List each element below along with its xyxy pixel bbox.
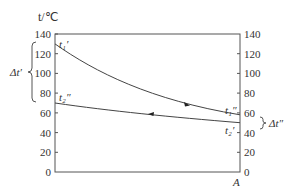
- t1-double-prime-label: t₁″: [225, 104, 237, 116]
- t2-curve: [55, 103, 240, 123]
- delta-t-double-prime-brace: [260, 117, 266, 129]
- y-axis-title: t/℃: [38, 10, 58, 24]
- delta-t-prime-label: Δt′: [9, 66, 23, 78]
- t2-double-prime-label: t₂″: [59, 91, 71, 103]
- right-tick-60: 60: [244, 107, 256, 119]
- left-tick-40: 40: [40, 127, 52, 139]
- left-tick-80: 80: [40, 87, 52, 99]
- left-tick-60: 60: [40, 107, 52, 119]
- right-axis: 140 120 100 80 60 40 20 0: [237, 28, 261, 178]
- left-tick-120: 120: [35, 48, 52, 60]
- t2-prime-label: t₂′: [225, 124, 235, 136]
- t2-arrow-left-icon: [148, 112, 154, 116]
- t1-prime-label: t₁′: [59, 38, 69, 50]
- left-tick-140: 140: [35, 28, 52, 40]
- delta-t-double-prime-label: Δt″: [268, 117, 284, 129]
- right-tick-80: 80: [244, 87, 256, 99]
- t1-curve: [55, 44, 240, 115]
- plot-frame: [55, 34, 240, 172]
- right-tick-0: 0: [244, 166, 250, 178]
- right-tick-100: 100: [244, 67, 261, 79]
- left-tick-100: 100: [35, 67, 52, 79]
- x-axis-label-A: A: [232, 176, 240, 188]
- left-axis: 140 120 100 80 60 40 20 0: [35, 28, 59, 178]
- right-tick-120: 120: [244, 48, 261, 60]
- right-tick-20: 20: [244, 146, 256, 158]
- left-tick-0: 0: [46, 166, 52, 178]
- heat-exchanger-temperature-chart: t/℃ 140 120 100 80 60 40 20 0 140 120 10…: [0, 0, 294, 196]
- right-tick-40: 40: [244, 127, 256, 139]
- right-tick-140: 140: [244, 28, 261, 40]
- left-tick-20: 20: [40, 146, 52, 158]
